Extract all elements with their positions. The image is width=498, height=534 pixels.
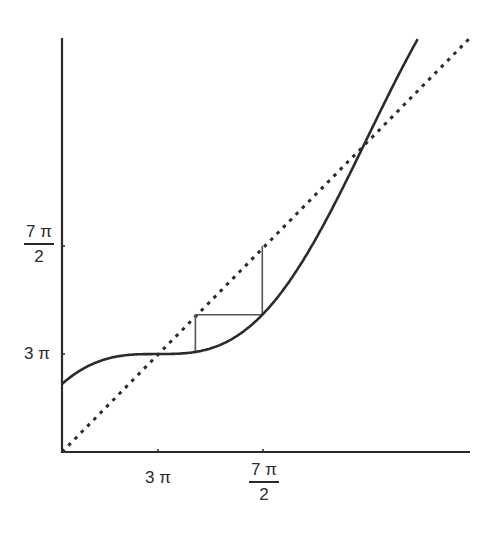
identity-line	[62, 38, 470, 452]
x-tick-label-7pi-2: 7 π 2	[246, 460, 282, 504]
x-tick-label-3pi: 3 π	[140, 468, 176, 488]
plot-area	[0, 0, 498, 534]
fraction-numerator: 7 π	[251, 460, 277, 479]
function-curve	[62, 39, 418, 384]
fraction-bar	[249, 481, 279, 483]
fraction-denominator: 2	[259, 485, 268, 504]
y-tick-label-7pi-2: 7 π 2	[22, 222, 56, 266]
cobweb-path	[195, 246, 262, 352]
y-tick-label-3pi: 3 π	[20, 344, 54, 364]
fraction-denominator: 2	[34, 247, 43, 266]
fraction-bar	[24, 243, 54, 245]
fraction-numerator: 7 π	[26, 222, 52, 241]
